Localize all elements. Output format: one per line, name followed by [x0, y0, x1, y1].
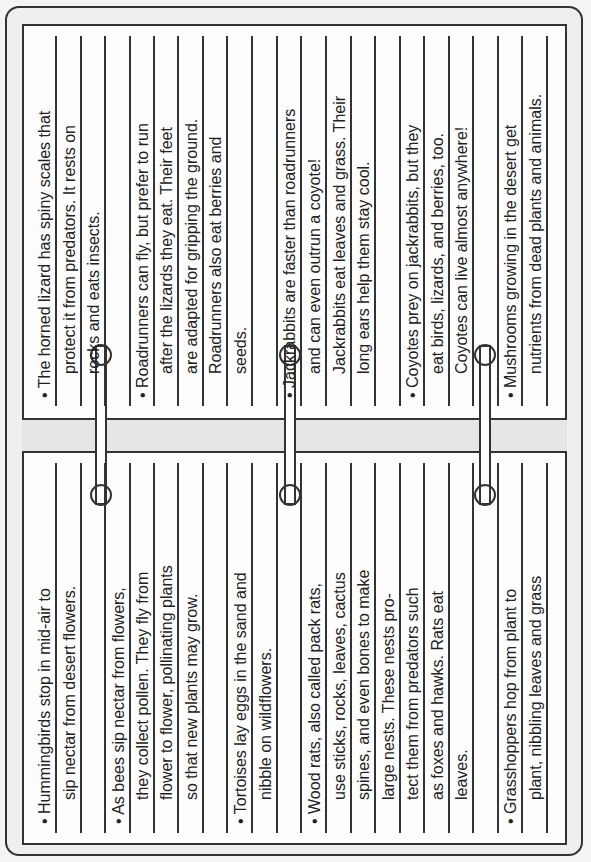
ruled-line — [325, 463, 327, 833]
ruled-line — [55, 463, 57, 833]
ruled-line — [177, 463, 179, 833]
text-line: large nests. These nests pro- — [381, 593, 397, 800]
ruled-line — [497, 463, 499, 833]
ruled-line — [423, 463, 425, 833]
ruled-line — [546, 36, 548, 406]
ring-hole-icon — [279, 484, 301, 506]
ruled-line — [129, 463, 131, 833]
ruled-line — [448, 463, 450, 833]
text-line: leaves. — [454, 749, 470, 800]
ruled-line — [546, 463, 548, 833]
text-line: nibble on wildflowers. — [258, 648, 274, 800]
ruled-line — [276, 36, 278, 406]
ruled-line — [80, 36, 82, 406]
text-line: use sticks, rocks, leaves, cactus — [332, 572, 348, 800]
ruled-line — [350, 463, 352, 833]
ruled-line — [129, 36, 131, 406]
ruled-line — [153, 36, 155, 406]
text-line: rocks and eats insects. — [86, 211, 102, 374]
ruled-line — [374, 463, 376, 833]
bullet-text-line: • Wood rats, also called pack rats, — [307, 583, 323, 824]
text-line: so that new plants may grow. — [184, 594, 200, 800]
text-line: flower to flower, pollinating plants — [159, 565, 175, 800]
bullet-text-line: • Hummingbirds stop in mid-air to — [37, 588, 53, 824]
text-line: tect them from predators such — [405, 587, 421, 800]
bullet-text-line: • Coyotes prey on jackrabbits, but they — [405, 125, 421, 398]
text-line: long ears help them stay cool. — [356, 161, 372, 374]
ruled-line — [226, 36, 228, 406]
bullet-text-line: • The horned lizard has spiny scales tha… — [37, 111, 53, 398]
text-line: and can even outrun a coyote! — [307, 159, 323, 374]
ruled-line — [399, 463, 401, 833]
ruled-line — [350, 36, 352, 406]
text-line: nutrients from dead plants and animals. — [528, 94, 544, 374]
ruled-line — [276, 463, 278, 833]
bullet-text-line: • As bees sip nectar from flowers, — [111, 587, 127, 824]
bullet-text-line: • Tortoises lay eggs in the sand and — [233, 572, 249, 824]
text-line: they collect pollen. They fly from — [135, 572, 151, 800]
text-line: seeds. — [233, 327, 249, 374]
ruled-line — [497, 36, 499, 406]
ruled-line — [202, 463, 204, 833]
ruled-line — [104, 463, 106, 833]
text-line: Jackrabbits eat leaves and grass. Their — [332, 96, 348, 374]
bullet-text-line: • Grasshoppers hop from plant to — [503, 589, 519, 824]
bullet-text-line: • Roadrunners can fly, but prefer to run — [135, 123, 151, 398]
text-line: protect it from predators. It rests on — [62, 125, 78, 374]
text-line: Roadrunners also eat berries and — [208, 137, 224, 374]
ruled-line — [80, 463, 82, 833]
ruled-line — [521, 36, 523, 406]
ring-hole-icon — [90, 484, 112, 506]
bullet-text-line: • Mushrooms growing in the desert get — [503, 125, 519, 398]
binder-ring — [479, 345, 491, 505]
ruled-line — [153, 463, 155, 833]
ruled-line — [300, 463, 302, 833]
text-line: sip nectar from desert flowers. — [62, 586, 78, 800]
ring-hole-icon — [474, 344, 496, 366]
text-line: eat birds, lizards, and berries, too. — [430, 133, 446, 374]
ruled-line — [300, 36, 302, 406]
ring-hole-icon — [474, 484, 496, 506]
ruled-line — [226, 463, 228, 833]
ruled-line — [202, 36, 204, 406]
text-line: after the lizards they eat. Their feet — [159, 127, 175, 374]
ruled-line — [472, 36, 474, 406]
ruled-line — [472, 463, 474, 833]
text-line: as foxes and hawks. Rats eat — [430, 591, 446, 800]
text-line: spines, and even bones to make — [356, 570, 372, 800]
text-line: are adapted for gripping the ground. — [184, 119, 200, 374]
ruled-line — [55, 36, 57, 406]
ruled-line — [399, 36, 401, 406]
ruled-line — [423, 36, 425, 406]
ruled-line — [251, 463, 253, 833]
bullet-text-line: • Jackrabbits are faster than roadrunner… — [282, 109, 298, 398]
ruled-line — [251, 36, 253, 406]
ruled-line — [325, 36, 327, 406]
ruled-line — [521, 463, 523, 833]
ruled-line — [104, 36, 106, 406]
ruled-line — [448, 36, 450, 406]
text-line: plant, nibbling leaves and grass — [528, 576, 544, 800]
ruled-line — [177, 36, 179, 406]
text-line: Coyotes can live almost anywhere! — [454, 127, 470, 374]
ruled-line — [374, 36, 376, 406]
